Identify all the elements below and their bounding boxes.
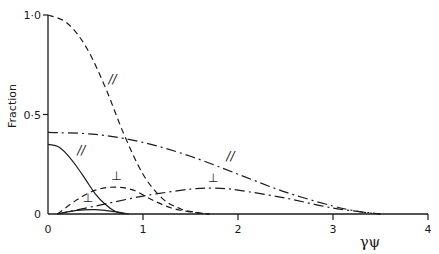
y-axis-label: Fraction — [6, 84, 19, 128]
x-tick-label: 4 — [425, 223, 432, 236]
y-tick-label: 0 — [34, 208, 41, 221]
x-axis-label: γψ — [360, 233, 381, 251]
x-tick-label: 3 — [330, 223, 337, 236]
perpendicular-annotation: ⊥ — [83, 191, 93, 205]
x-tick-label: 1 — [140, 223, 147, 236]
x-tick-label: 0 — [45, 223, 52, 236]
parallel-annotation: // — [108, 72, 119, 86]
y-tick-label: 1·0 — [24, 9, 42, 22]
x-tick-label: 2 — [235, 223, 242, 236]
chart: 0123400·51·0 //////⊥⊥⊥ Fraction γψ — [0, 0, 439, 254]
parallel-annotation: // — [76, 143, 87, 157]
y-tick-label: 0·5 — [24, 109, 42, 122]
parallel-annotation: // — [225, 149, 236, 163]
curve-annotations: //////⊥⊥⊥ — [76, 72, 236, 205]
perpendicular-annotation: ⊥ — [208, 171, 218, 185]
series-solid-perpendicular — [58, 210, 129, 214]
perpendicular-annotation: ⊥ — [111, 169, 121, 183]
series-dashed-parallel — [48, 15, 210, 214]
